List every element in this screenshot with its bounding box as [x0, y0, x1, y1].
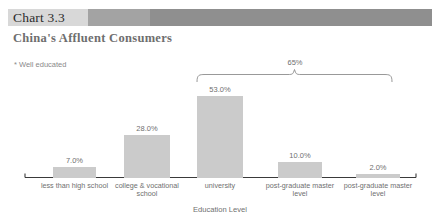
bracket-annotation — [197, 70, 392, 83]
category-label-text: university — [205, 181, 235, 190]
bar-value-post-graduate-master-2: 2.0% — [352, 163, 404, 172]
category-label-text: less than high school — [41, 181, 108, 190]
category-label-college-vocational: college & vocational school — [113, 182, 181, 199]
plot-area: 65% 7.0% less than high school 28.0% col… — [0, 0, 440, 224]
x-axis-title: Education Level — [0, 205, 440, 214]
bar-value-post-graduate-master-1: 10.0% — [274, 151, 326, 160]
category-label-text: post-graduate master level — [344, 181, 412, 198]
bar-university — [197, 96, 243, 178]
category-label-text: college & vocational school — [115, 181, 179, 198]
category-label-post-graduate-master-1: post-graduate master level — [264, 182, 336, 199]
bracket-label: 65% — [274, 58, 316, 67]
chart-page: Chart 3.3 China's Affluent Consumers * W… — [0, 0, 440, 224]
category-label-text: post-graduate master level — [266, 181, 334, 198]
bar-value-university: 53.0% — [194, 85, 246, 94]
bar-post-graduate-master-1 — [278, 162, 322, 178]
bar-less-than-high-school — [53, 167, 96, 178]
bar-value-less-than-high-school: 7.0% — [49, 156, 100, 165]
category-label-post-graduate-master-2: post-graduate master level — [342, 182, 414, 199]
bar-post-graduate-master-2 — [356, 174, 400, 178]
bar-college-vocational — [124, 135, 170, 178]
bar-value-college-vocational: 28.0% — [121, 124, 173, 133]
category-label-university: university — [192, 182, 248, 190]
category-label-less-than-high-school: less than high school — [38, 182, 111, 190]
